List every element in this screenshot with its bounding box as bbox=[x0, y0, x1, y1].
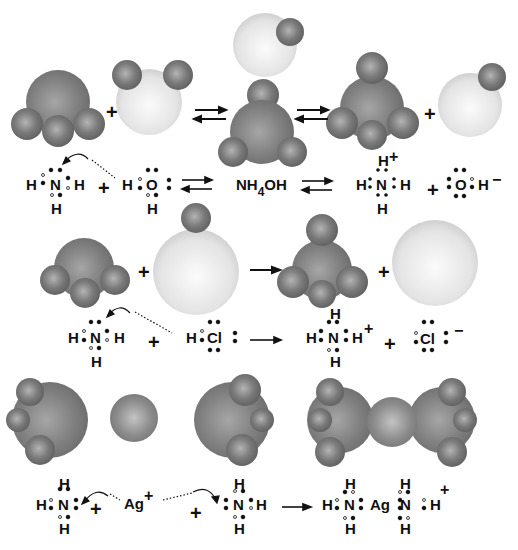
atom-h: H bbox=[26, 177, 37, 192]
atom-h: H bbox=[68, 330, 79, 345]
atom-cl: Cl bbox=[420, 331, 435, 346]
model-ammonium-row1 bbox=[326, 52, 419, 150]
atom-h: H bbox=[114, 330, 125, 345]
atom-n: N bbox=[376, 177, 387, 192]
plus-sign: + bbox=[424, 104, 436, 124]
atom-h: H bbox=[59, 476, 70, 491]
atom-h: H bbox=[147, 201, 158, 216]
atom-h: H bbox=[59, 521, 70, 536]
model-ammonia-row1 bbox=[11, 70, 105, 147]
plus-sign: + bbox=[98, 178, 110, 198]
atom-h: H bbox=[478, 177, 489, 192]
atom-h: H bbox=[345, 521, 356, 536]
charge-plus: + bbox=[389, 149, 398, 165]
atom-cl: Cl bbox=[207, 330, 222, 345]
model-ammonium-hydroxide bbox=[218, 13, 307, 167]
plus-sign: + bbox=[384, 334, 396, 354]
forward-arrow-equation-row3 bbox=[282, 504, 311, 510]
atom-h: H bbox=[400, 177, 411, 192]
atom-h: H bbox=[400, 521, 411, 536]
atom-n: N bbox=[233, 497, 244, 512]
molecule-models-layer bbox=[0, 0, 518, 550]
charge-plus: + bbox=[364, 321, 373, 337]
model-hydroxide bbox=[438, 63, 506, 137]
atom-h: H bbox=[256, 497, 267, 512]
atom-h: H bbox=[330, 306, 341, 321]
forward-arrow-equation-row2 bbox=[250, 337, 281, 343]
atom-n: N bbox=[344, 497, 355, 512]
model-ammonium-row2 bbox=[277, 214, 368, 308]
atom-h: H bbox=[377, 201, 388, 216]
model-water bbox=[112, 60, 193, 135]
ammonium-hydroxide-formula: NH4OH bbox=[236, 177, 287, 192]
equilibrium-arrow-equation-1 bbox=[182, 177, 212, 192]
equilibrium-arrow-models-2 bbox=[296, 107, 328, 122]
charge-minus: − bbox=[454, 323, 463, 339]
forward-arrow-models-row2 bbox=[250, 267, 280, 273]
atom-h: H bbox=[378, 153, 389, 168]
charge-minus: − bbox=[492, 172, 501, 188]
atom-h: H bbox=[330, 354, 341, 369]
atom-o: O bbox=[455, 177, 467, 192]
atom-o: O bbox=[146, 177, 158, 192]
atom-h: H bbox=[122, 177, 133, 192]
equilibrium-arrow-equation-2 bbox=[302, 178, 332, 193]
plus-sign: + bbox=[148, 332, 160, 352]
model-ammonia-row3-right bbox=[194, 374, 274, 466]
atom-h: H bbox=[74, 177, 85, 192]
model-diamminesilver-ion bbox=[307, 378, 477, 467]
atom-h: H bbox=[345, 476, 356, 491]
plus-sign: + bbox=[138, 262, 150, 282]
diagram-canvas: + + + + H N H H + H O H NH4OH H + H N H … bbox=[0, 0, 518, 550]
model-silver-ion bbox=[110, 394, 158, 442]
model-chloride bbox=[392, 220, 478, 306]
model-ammonia-row2 bbox=[40, 238, 130, 308]
model-ammonia-row3-left bbox=[6, 378, 88, 465]
atom-h: H bbox=[430, 497, 441, 512]
atom-h: H bbox=[306, 330, 317, 345]
model-hydrogen-chloride bbox=[153, 203, 239, 315]
silver-atom: Ag bbox=[370, 497, 390, 512]
atom-h: H bbox=[234, 521, 245, 536]
atom-h: H bbox=[322, 497, 333, 512]
plus-sign: + bbox=[378, 262, 390, 282]
atom-h: H bbox=[400, 476, 411, 491]
atom-n: N bbox=[50, 177, 61, 192]
plus-sign: + bbox=[190, 503, 202, 523]
atom-h: H bbox=[352, 330, 363, 345]
atom-h: H bbox=[356, 177, 367, 192]
atom-h: H bbox=[186, 330, 197, 345]
atom-h: H bbox=[36, 497, 47, 512]
plus-sign: + bbox=[90, 499, 102, 519]
plus-sign: + bbox=[106, 102, 118, 122]
atom-h: H bbox=[51, 201, 62, 216]
silver-ion-symbol: Ag bbox=[124, 496, 144, 511]
atom-n: N bbox=[58, 497, 69, 512]
atom-n: N bbox=[400, 497, 411, 512]
atom-h: H bbox=[234, 476, 245, 491]
charge-plus: + bbox=[144, 488, 153, 504]
atom-n: N bbox=[90, 330, 101, 345]
atom-h: H bbox=[91, 354, 102, 369]
equilibrium-arrow-models-1 bbox=[194, 107, 226, 122]
plus-sign: + bbox=[427, 180, 439, 200]
electron-pair-arrow-row1 bbox=[63, 154, 115, 178]
charge-plus: + bbox=[440, 482, 449, 498]
atom-n: N bbox=[328, 330, 339, 345]
